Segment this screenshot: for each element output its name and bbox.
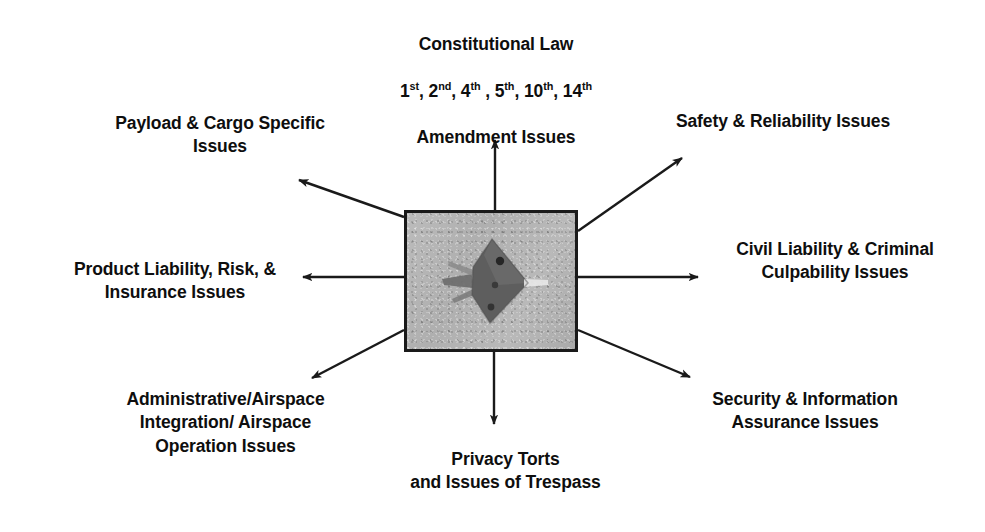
center-image-box xyxy=(404,210,578,352)
label-line-amendments: 1st, 2nd, 4th , 5th, 10th, 14th xyxy=(326,80,666,103)
label-line-1: Constitutional Law xyxy=(326,33,666,56)
label-administrative-airspace-integration-operation-issues: Administrative/Airspace Integration/ Air… xyxy=(78,388,373,458)
diagram-canvas: Constitutional Law 1st, 2nd, 4th , 5th, … xyxy=(0,0,985,532)
label-privacy-torts-and-issues-of-trespass: Privacy Torts and Issues of Trespass xyxy=(378,448,633,495)
label-security-information-assurance-issues: Security & Information Assurance Issues xyxy=(660,388,950,435)
label-safety-reliability-issues: Safety & Reliability Issues xyxy=(628,110,938,133)
arrow-down-left xyxy=(312,330,404,378)
unmanned-aircraft-icon xyxy=(432,233,550,329)
label-product-liability-risk-insurance-issues: Product Liability, Risk, & Insurance Iss… xyxy=(30,258,320,305)
label-payload-cargo-specific-issues: Payload & Cargo Specific Issues xyxy=(60,112,380,159)
arrow-up-left xyxy=(299,180,404,217)
label-civil-liability-criminal-culpability-issues: Civil Liability & Criminal Culpability I… xyxy=(690,238,980,285)
arrow-down-right xyxy=(578,330,690,377)
